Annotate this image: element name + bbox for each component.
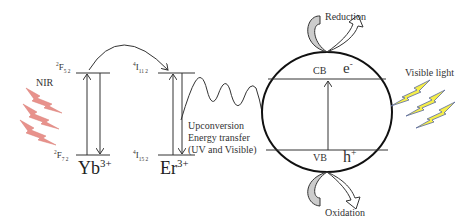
vb-label: VB [313,153,327,163]
transfer-text-line: Upconversion [188,120,256,132]
charge: 3+ [177,157,189,169]
transfer-text-line: (UV and Visible) [188,144,256,156]
electron-label: e- [343,60,353,76]
ion: Er [160,158,177,178]
sub: 5 2 [64,68,71,74]
electron: e [343,60,350,76]
energy-transfer-arc [89,45,168,70]
reduction-label: Reduction [325,12,366,22]
transfer-text-line: Energy transfer [188,132,256,144]
diagram-canvas [0,0,476,222]
yb-energy-levels [76,73,110,155]
oxidation-label: Oxidation [325,208,365,218]
sub: 11 2 [139,68,148,74]
nir-lightning-icons [20,88,62,145]
hole-charge: + [351,147,356,158]
er-upper-level-label: 4I11 2 [133,62,148,74]
hole-label: h+ [343,148,356,165]
hole: h [343,148,351,165]
cb-label: CB [313,66,326,76]
er-ion-label: Er3+ [160,158,189,177]
electron-charge: - [350,59,353,69]
ion: Yb [78,158,100,178]
sub: 15 2 [139,156,148,162]
yb-lower-level-label: 2F7 2 [54,150,68,162]
charge: 3+ [100,157,112,169]
transfer-text: Upconversion Energy transfer (UV and Vis… [188,120,256,156]
emission-wave [181,78,262,121]
oxidation-arrow-icon [308,172,360,209]
yb-ion-label: Yb3+ [78,158,112,177]
visible-light-lightning-icons [391,80,455,128]
visible-light-label: Visible light [405,68,454,78]
yb-upper-level-label: 2F5 2 [56,62,70,74]
sub: 7 2 [62,156,69,162]
nir-label: NIR [36,78,53,88]
semiconductor-particle [262,52,392,172]
er-lower-level-label: 4I15 2 [133,150,148,162]
